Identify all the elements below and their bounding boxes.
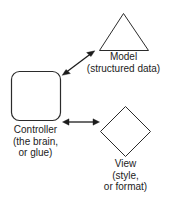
view-label-line-2: (style, [36,170,179,182]
mvc-diagram: Model (structured data) Controller (the … [0,0,179,211]
view-label-line-1: View [36,158,179,170]
controller-label-line-1: Controller [0,124,125,136]
view-label-line-3: or format) [36,181,179,193]
controller-node-label: Controller (the brain, or glue) [0,124,125,159]
controller-label-line-3: or glue) [0,147,125,159]
controller-label-line-2: (the brain, [0,136,125,148]
view-node-label: View (style, or format) [36,158,179,193]
model-node-label: Model (structured data) [34,51,179,74]
model-label-line-1: Model [34,51,179,63]
controller-rounded-rect-shape [12,72,61,121]
model-label-line-2: (structured data) [34,63,179,75]
model-triangle-shape [100,14,149,51]
